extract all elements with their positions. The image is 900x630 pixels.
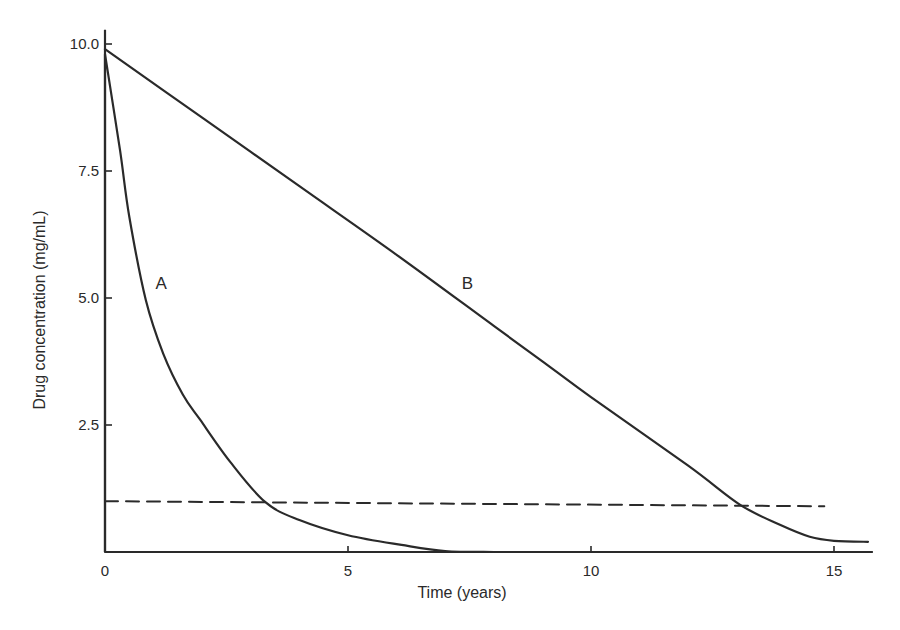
x-tick-label: 10 <box>583 562 600 579</box>
y-tick-label: 7.5 <box>78 162 99 179</box>
curve-a <box>105 54 494 552</box>
curve-label-a: A <box>156 274 168 293</box>
x-tick-label: 0 <box>101 562 109 579</box>
x-tick-label: 5 <box>344 562 352 579</box>
drug-concentration-chart: 0510152.55.07.510.0AB Time (years) Drug … <box>0 0 900 630</box>
y-tick-label: 10.0 <box>70 35 99 52</box>
threshold-dashed-line <box>105 501 824 506</box>
x-axis-title: Time (years) <box>417 584 506 601</box>
curve-b <box>105 49 868 542</box>
y-tick-label: 5.0 <box>78 289 99 306</box>
x-tick-label: 15 <box>826 562 843 579</box>
curve-label-b: B <box>462 274 473 293</box>
plot-area: 0510152.55.07.510.0AB <box>70 30 873 579</box>
y-tick-label: 2.5 <box>78 416 99 433</box>
y-axis-title: Drug concentration (mg/mL) <box>31 210 48 409</box>
